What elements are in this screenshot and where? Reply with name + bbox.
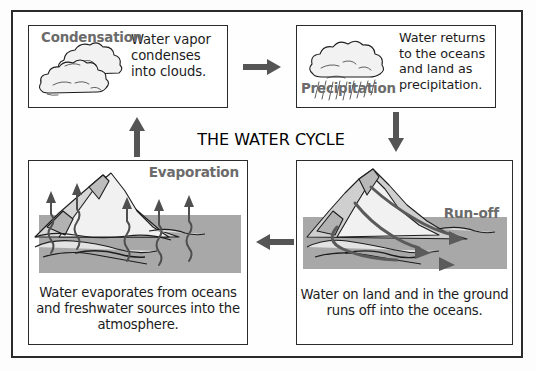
panel-evaporation[interactable]: Evaporation Water evaporates from oceans… xyxy=(28,160,248,345)
label-condensation: Condensation xyxy=(41,30,142,45)
runoff-illustration: Run-off xyxy=(297,161,512,281)
panel-runoff[interactable]: Run-off Water on land and in the ground … xyxy=(296,160,513,345)
arrow-condensation-to-precipitation-icon xyxy=(243,57,283,77)
page-title-text: THE WATER CYCLE xyxy=(197,130,345,149)
evaporation-caption: Water evaporates from oceans and freshwa… xyxy=(29,281,247,334)
panel-condensation[interactable]: Water vapor condenses into clouds. Conde… xyxy=(28,25,228,108)
page-title: THE WATER CYCLE xyxy=(176,130,366,149)
precipitation-description: Water returns to the oceans and land as … xyxy=(395,26,495,107)
label-runoff: Run-off xyxy=(444,205,499,221)
label-precipitation: Precipitation xyxy=(301,81,396,96)
panel-precipitation[interactable]: Water returns to the oceans and land as … xyxy=(296,25,496,108)
arrow-evaporation-to-condensation-icon xyxy=(127,115,147,157)
runoff-caption: Water on land and in the ground runs off… xyxy=(297,281,512,319)
arrow-precipitation-to-runoff-icon xyxy=(386,112,406,154)
evaporation-illustration: Evaporation xyxy=(29,161,247,281)
label-evaporation: Evaporation xyxy=(149,164,239,180)
water-cycle-diagram: Water vapor condenses into clouds. Conde… xyxy=(0,0,536,371)
arrow-runoff-to-evaporation-icon xyxy=(254,232,294,252)
